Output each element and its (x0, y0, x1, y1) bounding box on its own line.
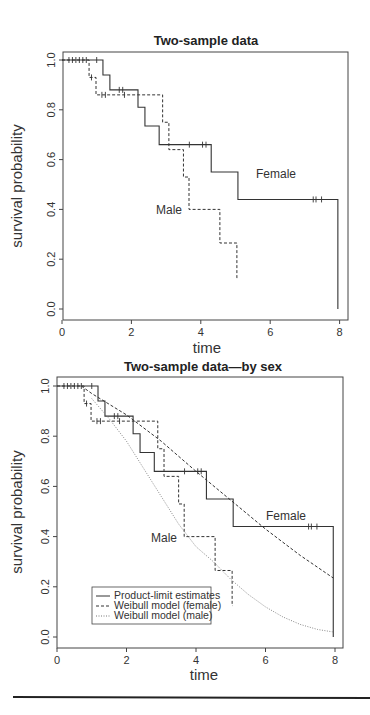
figure-canvas: Two-sample data 024680.00.20.40.60.81.0 … (0, 0, 370, 715)
y-tick-label: 0.8 (39, 429, 51, 444)
page-rule (13, 697, 370, 698)
x-tick-label: 4 (193, 654, 199, 666)
chart-two-sample: Two-sample data 024680.00.20.40.60.81.0 … (8, 33, 348, 356)
annotation-female: Female (256, 167, 296, 181)
y-tick-label: 0.2 (39, 579, 51, 594)
y-tick-label: 0.6 (39, 479, 51, 494)
y-tick-label: 0.8 (45, 102, 57, 117)
y-tick-label: 1.0 (45, 52, 57, 67)
x-tick-label: 8 (337, 326, 343, 338)
x-axis-label: time (190, 666, 218, 683)
y-tick-label: 1.0 (39, 378, 51, 393)
y-tick-label: 0.2 (45, 252, 57, 267)
survival-curves (62, 57, 338, 309)
y-axis-label: survival probability (8, 450, 25, 574)
y-tick-label: 0.4 (39, 529, 51, 544)
x-tick-label: 0 (59, 326, 65, 338)
legend-label: Weibull model (male) (114, 609, 212, 621)
x-tick-label: 8 (332, 654, 338, 666)
x-tick-label: 4 (198, 326, 204, 338)
chart-title: Two-sample data (154, 33, 259, 48)
series-weibull-model-female- (81, 386, 333, 578)
annotation-male: Male (151, 531, 177, 545)
x-tick-label: 6 (262, 654, 268, 666)
y-tick-label: 0.4 (45, 202, 57, 217)
chart-title: Two-sample data—by sex (124, 359, 283, 374)
y-tick-label: 0.6 (45, 152, 57, 167)
y-tick-label: 0.0 (39, 629, 51, 644)
x-axis-label: time (193, 339, 221, 356)
y-tick-label: 0.0 (45, 301, 57, 316)
x-tick-label: 2 (123, 654, 129, 666)
annotation-male: Male (156, 203, 182, 217)
x-tick-label: 0 (54, 654, 60, 666)
axes: 024680.00.20.40.60.81.0 (45, 52, 343, 338)
x-tick-label: 6 (267, 326, 273, 338)
y-axis-label: survival probability (8, 124, 25, 248)
annotation-female: Female (266, 509, 306, 523)
chart-two-sample-by-sex: Two-sample data—by sex 024680.00.20.40.6… (8, 359, 343, 683)
series-female (62, 60, 338, 309)
legend: Product-limit estimates Weibull model (f… (92, 587, 221, 624)
x-tick-label: 2 (128, 326, 134, 338)
